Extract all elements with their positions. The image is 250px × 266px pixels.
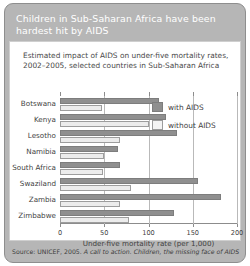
category-label: Botswana — [21, 99, 56, 108]
x-tick — [149, 224, 150, 227]
bar-without-aids — [60, 153, 104, 159]
category-label: Kenya — [34, 115, 56, 124]
legend-swatch-with-aids — [152, 102, 163, 112]
x-tick-label: 150 — [186, 229, 199, 237]
x-tick — [237, 224, 238, 227]
bar-without-aids — [60, 201, 120, 207]
bar-without-aids — [60, 217, 129, 223]
chart-row: Zimbabwe — [60, 208, 237, 224]
legend: with AIDS without AIDS — [152, 102, 216, 138]
chart-row: Namibia — [60, 144, 237, 160]
category-label: Zimbabwe — [18, 211, 56, 220]
gridline — [237, 96, 238, 224]
x-tick-top — [237, 92, 238, 96]
legend-label-with-aids: with AIDS — [168, 103, 204, 112]
category-label: Zambia — [29, 195, 56, 204]
x-axis-label: Under-five mortality rate (per 1,000) — [60, 239, 237, 248]
x-tick — [60, 224, 61, 227]
legend-item-without-aids: without AIDS — [152, 120, 216, 130]
x-tick — [193, 224, 194, 227]
category-label: Namibia — [26, 147, 56, 156]
category-label: Swaziland — [20, 179, 56, 188]
bar-with-aids — [60, 162, 120, 168]
bar-with-aids — [60, 146, 118, 152]
x-tick — [104, 224, 105, 227]
x-tick-label: 0 — [58, 229, 62, 237]
legend-label-without-aids: without AIDS — [168, 121, 216, 130]
chart-row: Zambia — [60, 192, 237, 208]
legend-swatch-without-aids — [152, 120, 163, 130]
chart-subtitle: Estimated impact of AIDS on under-five m… — [23, 51, 235, 70]
source-note: Source: UNICEF, 2005. A call to action. … — [12, 248, 242, 255]
source-prefix: Source: UNICEF, 2005. — [12, 248, 82, 255]
x-tick-label: 50 — [100, 229, 108, 237]
bar-with-aids — [60, 178, 198, 184]
bar-with-aids — [60, 210, 174, 216]
category-label: Lesotho — [28, 131, 56, 140]
headline: Children in Sub-Saharan Africa have been… — [16, 13, 224, 36]
source-citation: A call to action. Children, the missing … — [84, 248, 239, 255]
chart-card: Estimated impact of AIDS on under-five m… — [9, 41, 241, 241]
bar-without-aids — [60, 121, 149, 127]
x-tick-label: 200 — [231, 229, 244, 237]
figure-root: Children in Sub-Saharan Africa have been… — [0, 0, 250, 266]
bar-without-aids — [60, 169, 103, 175]
bar-with-aids — [60, 114, 166, 120]
chart-row: Swaziland — [60, 176, 237, 192]
bar-without-aids — [60, 105, 102, 111]
bar-without-aids — [60, 185, 131, 191]
bar-with-aids — [60, 194, 221, 200]
bar-with-aids — [60, 98, 159, 104]
x-tick-label: 100 — [142, 229, 155, 237]
chart-row: South Africa — [60, 160, 237, 176]
category-label: South Africa — [12, 163, 56, 172]
bar-without-aids — [60, 137, 120, 143]
legend-item-with-aids: with AIDS — [152, 102, 216, 112]
